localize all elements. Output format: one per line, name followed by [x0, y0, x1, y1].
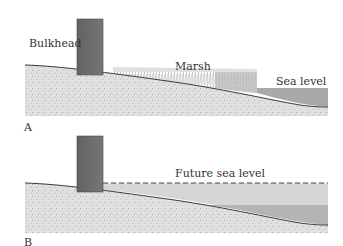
panel-a-letter: A [24, 122, 32, 133]
marsh-label: Marsh [175, 61, 211, 72]
sea-level-label: Sea level [276, 76, 326, 87]
bulkhead-wall-b [77, 136, 103, 192]
bulkhead-label: Bulkhead [29, 38, 82, 49]
panel-b [25, 136, 328, 233]
future-sea-level-label: Future sea level [175, 168, 265, 179]
panel-b-letter: B [24, 237, 32, 246]
bulkhead-marsh-diagram: Bulkhead Marsh Sea level A Future sea le… [0, 0, 343, 246]
